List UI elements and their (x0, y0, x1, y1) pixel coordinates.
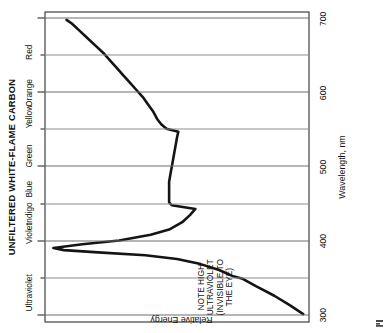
rotated-chart-stage: UNFILTERED WHITE-FLAME CARBON 3004005006… (0, 0, 390, 333)
band-label-orange: Orange (23, 78, 33, 106)
band-label-green: Green (23, 144, 33, 167)
gridline-minor (44, 128, 309, 129)
gridline (44, 166, 309, 167)
gridline (44, 17, 309, 18)
gridline-minor (44, 277, 309, 278)
x-axis-tick-label: 700 (317, 11, 327, 25)
y-axis-title: Relative Energy (121, 314, 241, 324)
gridline (44, 240, 309, 241)
axis-tick-minor (40, 128, 45, 129)
band-label-blue: Blue (23, 180, 33, 197)
annotation-line-2: ULTRAVIOLET (205, 259, 214, 315)
ultraviolet-annotation: NOTE HIGH ULTRAVIOLET (INVISIBLE TO THE … (196, 259, 234, 315)
x-axis-title: Wavelength, nm (336, 0, 346, 333)
x-axis-tick-label: 400 (317, 233, 327, 247)
band-label-yellow: Yellow (23, 104, 33, 128)
axis-tick-major (37, 240, 44, 241)
axis-tick-major (37, 17, 44, 18)
axis-tick-minor (40, 277, 45, 278)
x-axis-tick-label: 300 (317, 307, 327, 321)
gridline-minor (44, 54, 309, 55)
band-label-violet: Violet (23, 223, 33, 244)
band-label-indigo: Indigo (23, 202, 33, 225)
axis-tick-minor (40, 203, 45, 204)
annotation-line-4: THE EYE) (224, 259, 233, 315)
gridline-minor (44, 203, 309, 204)
gridline (44, 91, 309, 92)
axis-tick-major (37, 91, 44, 92)
chart-title: UNFILTERED WHITE-FLAME CARBON (6, 0, 16, 333)
print-registration-mark (376, 320, 383, 327)
axis-tick-major (37, 314, 44, 315)
x-axis-tick-label: 600 (317, 85, 327, 99)
axis-tick-minor (40, 54, 45, 55)
axis-tick-major (37, 166, 44, 167)
x-axis-tick-label: 500 (317, 159, 327, 173)
band-label-ultraviolet: Ultraviolet (23, 274, 33, 311)
band-label-red: Red (23, 44, 33, 59)
